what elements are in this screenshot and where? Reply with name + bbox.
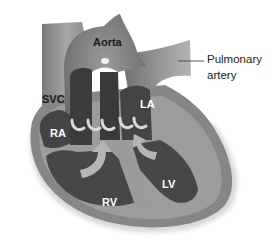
label-lv: LV xyxy=(162,178,176,190)
heart-diagram: Aorta Pulmonary artery SVC LA RA RV LV xyxy=(0,0,274,247)
label-aorta: Aorta xyxy=(93,36,123,48)
label-rv: RV xyxy=(102,196,118,208)
la-chamber xyxy=(120,86,152,140)
label-svc: SVC xyxy=(42,93,65,105)
outflow-tract xyxy=(70,68,92,145)
label-ra: RA xyxy=(50,127,66,139)
label-pulmonary-artery-line2: artery xyxy=(207,69,237,81)
aorta-highlight xyxy=(101,58,109,64)
label-la: LA xyxy=(140,98,155,110)
label-pulmonary-artery-line1: Pulmonary xyxy=(207,53,262,65)
